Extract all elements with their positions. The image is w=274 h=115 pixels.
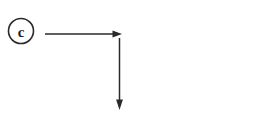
figure-canvas: c — [0, 0, 274, 115]
step-marker-c: c — [9, 19, 34, 44]
figure-diagram: c — [0, 0, 274, 115]
right-arrow — [45, 31, 122, 38]
down-arrow — [116, 38, 123, 110]
right-arrow-head — [113, 31, 123, 38]
step-marker-label: c — [18, 24, 25, 40]
down-arrow-head — [116, 100, 123, 111]
